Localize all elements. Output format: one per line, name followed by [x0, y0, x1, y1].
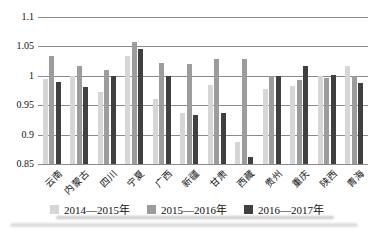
bar: [166, 76, 171, 164]
bar: [303, 66, 308, 164]
x-axis-category-label: 陕西: [318, 168, 339, 189]
bar: [345, 66, 350, 164]
bar: [318, 76, 323, 164]
bar: [214, 59, 219, 164]
gridline: [38, 46, 368, 47]
x-axis-category-label: 重庆: [290, 168, 311, 189]
legend-label: 2016—2017年: [258, 201, 324, 217]
bar: [269, 76, 274, 164]
bar: [352, 76, 357, 164]
y-axis-tick-label: 1.05: [0, 40, 34, 52]
y-axis-tick-label: 1: [0, 70, 34, 82]
bar: [49, 56, 54, 164]
legend-label: 2015—2016年: [161, 201, 227, 217]
x-axis-category-label: 贵州: [263, 168, 284, 189]
x-axis-category-label: 西藏: [235, 168, 256, 189]
bar: [98, 92, 103, 164]
y-axis-tick-label: 0.85: [0, 158, 34, 170]
bar: [43, 79, 48, 164]
bar: [276, 76, 281, 164]
bar: [331, 75, 336, 164]
legend-label: 2014—2015年: [64, 201, 130, 217]
bar: [138, 49, 143, 164]
gridline: [38, 164, 368, 165]
bar: [132, 42, 137, 164]
bar: [77, 66, 82, 164]
bar: [221, 113, 226, 164]
legend-item: 2015—2016年: [147, 201, 227, 217]
bar: [242, 59, 247, 164]
x-axis-category-label: 内蒙古: [63, 168, 91, 196]
bar: [235, 142, 240, 164]
x-axis-category-label: 新疆: [180, 168, 201, 189]
x-axis-category-label: 云南: [43, 168, 64, 189]
bar: [187, 64, 192, 165]
bar: [125, 56, 130, 164]
y-axis-tick-label: 0.95: [0, 99, 34, 111]
bar: [56, 82, 61, 164]
bar: [153, 99, 158, 164]
bar: [290, 86, 295, 164]
bar: [159, 63, 164, 164]
bar: [180, 113, 185, 164]
bar: [358, 83, 363, 164]
y-axis-tick-label: 0.9: [0, 129, 34, 141]
gridline: [38, 17, 368, 18]
x-axis-category-label: 广西: [153, 168, 174, 189]
bar: [248, 157, 253, 164]
x-axis-category-label: 宁夏: [125, 168, 146, 189]
bar: [263, 89, 268, 164]
bar: [324, 78, 329, 164]
bar: [111, 76, 116, 164]
cutoff-text-artifact: [56, 216, 334, 219]
x-axis-category-label: 青海: [345, 168, 366, 189]
x-axis-category-label: 甘肃: [208, 168, 229, 189]
legend-item: 2016—2017年: [244, 201, 324, 217]
bar: [83, 87, 88, 164]
legend-swatch-2014-2015: [50, 205, 59, 214]
legend-item: 2014—2015年: [50, 201, 130, 217]
bar: [70, 76, 75, 164]
legend: 2014—2015年 2015—2016年 2016—2017年: [0, 201, 374, 217]
bar: [208, 85, 213, 164]
bar: [104, 70, 109, 164]
x-axis-category-label: 四川: [98, 168, 119, 189]
bar: [193, 115, 198, 164]
bar: [297, 80, 302, 164]
cutoff-text-artifact: [10, 223, 358, 227]
legend-swatch-2015-2016: [147, 205, 156, 214]
legend-swatch-2016-2017: [244, 205, 253, 214]
y-axis-tick-label: 1.1: [0, 11, 34, 23]
bar-chart-figure: 0.850.90.9511.051.1云南内蒙古四川宁夏广西新疆甘肃西藏贵州重庆…: [0, 0, 374, 230]
